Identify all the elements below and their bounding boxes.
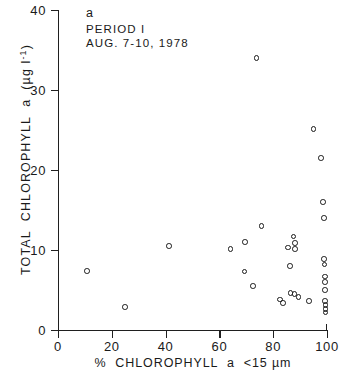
data-point — [242, 269, 248, 275]
x-axis-line — [58, 330, 328, 331]
data-point — [250, 283, 256, 289]
data-point — [318, 155, 324, 161]
x-tick-20 — [112, 331, 113, 338]
x-tick-label-0: 0 — [54, 340, 62, 353]
data-point — [122, 304, 128, 310]
y-axis-title: TOTAL CHLOROPHYLL a (µg l-1) — [18, 30, 33, 290]
data-point — [280, 300, 286, 306]
x-tick-label-100: 100 — [315, 340, 339, 353]
x-axis-title-text: % CHLOROPHYLL a <15 µm — [95, 356, 292, 370]
y-tick-40 — [51, 10, 58, 11]
data-point — [292, 246, 298, 252]
x-tick-label-80: 80 — [265, 340, 281, 353]
x-tick-0 — [58, 331, 59, 338]
x-tick-label-40: 40 — [158, 340, 174, 353]
data-point — [287, 263, 293, 269]
data-point — [166, 243, 172, 249]
x-tick-100 — [327, 331, 328, 338]
data-point — [84, 268, 90, 274]
y-tick-20 — [51, 170, 58, 171]
data-point — [296, 294, 302, 300]
x-axis-title: % CHLOROPHYLL a <15 µm — [58, 356, 328, 370]
x-tick-80 — [273, 331, 274, 338]
data-point — [311, 126, 317, 132]
y-tick-label-0: 0 — [38, 324, 46, 337]
y-tick-0 — [51, 330, 58, 331]
data-point — [285, 245, 291, 251]
data-point — [322, 279, 328, 285]
plot-area — [58, 10, 327, 330]
data-point — [323, 310, 329, 316]
data-point — [292, 240, 298, 246]
x-tick-label-20: 20 — [104, 340, 120, 353]
data-point — [306, 298, 312, 304]
x-tick-label-60: 60 — [212, 340, 228, 353]
data-point — [321, 215, 327, 221]
data-point — [291, 234, 297, 240]
y-tick-label-40: 40 — [30, 4, 46, 17]
data-point — [228, 246, 234, 252]
x-tick-60 — [219, 331, 220, 338]
y-tick-30 — [51, 90, 58, 91]
data-point — [322, 287, 328, 293]
y-tick-10 — [51, 250, 58, 251]
y-axis-title-text: TOTAL CHLOROPHYLL a (µg l-1) — [20, 44, 34, 275]
data-point — [254, 55, 260, 61]
data-point — [320, 199, 326, 205]
x-tick-40 — [166, 331, 167, 338]
data-point — [242, 239, 248, 245]
data-point — [321, 256, 327, 262]
data-point — [322, 262, 328, 268]
data-point — [259, 223, 265, 229]
